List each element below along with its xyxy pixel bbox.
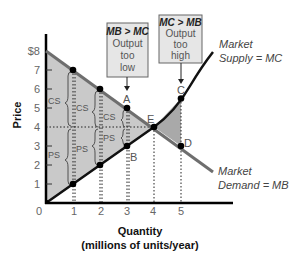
box-low-line1: Output [112, 38, 142, 49]
cs-label-q2: CS [103, 112, 116, 122]
point-c [178, 95, 185, 102]
y-tick-4: 4 [34, 121, 40, 133]
y-tick-3: 3 [34, 140, 40, 152]
ps-label-outer: PS [48, 150, 60, 160]
demand-label-line1: Market [218, 165, 253, 177]
y-tick-8: $8 [28, 45, 40, 57]
point-demand-q2 [97, 86, 104, 93]
box-low-line2: too [121, 50, 135, 61]
ps-label-q1: PS [76, 144, 88, 154]
box-low-line3: low [120, 62, 136, 73]
point-supply-q1 [70, 181, 77, 188]
y-tick-2: 2 [34, 159, 40, 171]
demand-label-line2: Demand = MB [218, 179, 289, 191]
box-high-line2: too [174, 39, 188, 50]
x-axis-subtitle: (millions of units/year) [81, 239, 199, 251]
annotation-output-too-low: MB > MC Output too low [106, 23, 149, 91]
supply-label-line1: Market [219, 38, 254, 50]
y-tick-7: 7 [34, 64, 40, 76]
x-tick-2: 2 [98, 205, 104, 217]
box-high-line3: high [171, 50, 190, 61]
label-c: C [177, 84, 185, 96]
y-tick-1: 1 [34, 178, 40, 190]
annotation-output-too-high: MC > MB Output too high [159, 15, 202, 84]
origin-point [45, 200, 49, 204]
label-d: D [184, 137, 192, 149]
y-tick-5: 5 [34, 102, 40, 114]
y-tick-6: 6 [34, 83, 40, 95]
point-supply-q2 [97, 162, 104, 169]
box-high-title: MC > MB [159, 17, 202, 28]
point-a [124, 105, 131, 112]
x-tick-4: 4 [150, 205, 156, 217]
box-high-line1: Output [165, 28, 195, 39]
x-axis-title: Quantity [118, 225, 163, 237]
label-b: B [130, 151, 137, 163]
supply-label-line2: Supply = MC [219, 52, 282, 64]
label-e: E [147, 113, 154, 125]
x-tick-5: 5 [178, 205, 184, 217]
arrow-to-a-icon [124, 86, 130, 91]
point-demand-q1 [70, 67, 77, 74]
y-axis-title: Price [11, 102, 23, 129]
point-b [124, 143, 131, 150]
x-tick-1: 1 [71, 205, 77, 217]
supply-demand-chart: CS PS CS PS CS PS A B E C D $8 7 6 5 4 3… [0, 0, 297, 261]
box-low-title: MB > MC [106, 26, 149, 37]
label-a: A [123, 93, 131, 105]
cs-label-q1: CS [76, 103, 89, 113]
cs-label-outer: CS [48, 96, 61, 106]
ps-label-q2: PS [103, 133, 115, 143]
x-tick-3: 3 [124, 205, 130, 217]
x-tick-0: 0 [36, 205, 42, 217]
